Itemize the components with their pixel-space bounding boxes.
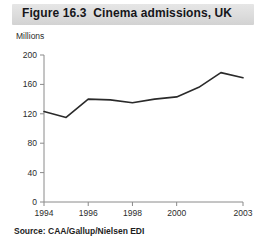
figure-container: Figure 16.3 Cinema admissions, UK Millio… <box>0 0 266 247</box>
x-tick-label: 1996 <box>79 208 98 218</box>
y-tick-label: 0 <box>32 197 37 207</box>
x-tick-label: 2003 <box>234 208 253 218</box>
y-tick-label: 120 <box>23 109 37 119</box>
x-tick-label: 1998 <box>123 208 142 218</box>
x-tick-label: 1994 <box>35 208 54 218</box>
figure-title: Figure 16.3 Cinema admissions, UK <box>22 6 232 20</box>
x-axis-ticks: 19941996199820002003 <box>35 202 253 218</box>
y-axis-unit-label: Millions <box>16 31 44 41</box>
y-tick-label: 160 <box>23 79 37 89</box>
y-tick-label: 80 <box>28 138 38 148</box>
x-tick-label: 2000 <box>167 208 186 218</box>
y-tick-label: 40 <box>28 168 38 178</box>
y-tick-label: 200 <box>23 50 37 60</box>
y-axis-ticks: 04080120160200 <box>23 50 44 207</box>
series-line-cinema-admissions <box>44 73 243 118</box>
figure-source: Source: CAA/Gallup/Nielsen EDI <box>14 226 144 236</box>
